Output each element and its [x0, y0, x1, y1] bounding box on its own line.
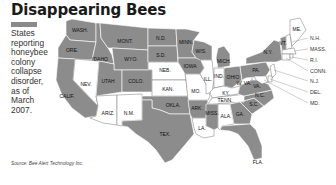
label-ky: KY.: [222, 90, 229, 96]
label-wis: WIS.: [196, 48, 207, 54]
label-okla: OKLA.: [166, 102, 181, 108]
state-ri: [290, 54, 293, 58]
label-ga: GA.: [236, 111, 245, 117]
label-wyo: WYO.: [124, 56, 137, 62]
label-minn: MINN.: [179, 39, 193, 45]
state-miss: [206, 104, 218, 130]
label-neb: NEB.: [159, 67, 171, 73]
label-nd: N.D.: [156, 35, 166, 41]
label-va: VA.: [253, 83, 261, 89]
label-vt: VT.: [279, 40, 286, 46]
callout-del: DEL.: [310, 89, 322, 95]
label-calif: CALIF.: [59, 93, 74, 99]
label-me: ME.: [293, 26, 302, 32]
callout-md: MD.: [310, 100, 320, 106]
callout-nh: N.H.: [310, 35, 320, 41]
label-ariz: ARIZ.: [102, 110, 115, 116]
label-iowa: IOWA: [183, 63, 197, 69]
label-miss: MISS.: [205, 110, 219, 116]
label-ind: IND.: [214, 73, 224, 79]
leader-del: [270, 79, 308, 92]
label-mont: MONT.: [117, 38, 133, 44]
label-wva: W. VA.: [237, 80, 252, 86]
label-wash: WASH.: [72, 27, 88, 33]
state-conn: [282, 54, 290, 60]
leader-conn: [286, 58, 308, 71]
state-mont: [100, 23, 148, 50]
label-tex: TEX.: [159, 131, 170, 137]
label-colo: COLO.: [128, 78, 144, 84]
label-mo: MO.: [191, 88, 200, 94]
callout-conn: CONN.: [310, 68, 327, 74]
label-idaho: IDAHO: [92, 56, 108, 62]
label-mich: MICH.: [217, 58, 231, 64]
callout-mass: MASS.: [310, 46, 326, 52]
label-ill: ILL.: [204, 76, 212, 82]
label-ny: N.Y.: [263, 49, 272, 55]
label-la: LA.: [198, 125, 206, 131]
label-nev: NEV.: [80, 81, 91, 87]
leader-mass: [294, 49, 308, 51]
leader-nj: [274, 70, 308, 81]
label-kan: KAN.: [162, 86, 174, 92]
label-fla: FLA.: [253, 159, 264, 165]
label-ark: ARK.: [191, 105, 203, 111]
label-ala: ALA.: [221, 113, 232, 119]
leader-ri: [292, 57, 308, 60]
state-mich: [216, 46, 230, 68]
label-nc: N.C.: [255, 92, 265, 98]
state-fla: [220, 124, 262, 160]
label-sc: S.C.: [249, 101, 259, 107]
label-ore: ORE.: [66, 47, 78, 53]
us-map: WASH. ORE. IDAHO MONT. WYO. N.D. S.D. NE…: [0, 0, 336, 185]
label-nm: N.M.: [124, 110, 135, 116]
label-utah: UTAH: [101, 78, 115, 84]
label-tenn: TENN.: [218, 97, 233, 103]
source-note: Source: Bee Alert Technology Inc.: [11, 161, 83, 166]
callout-nj: N.J.: [310, 78, 319, 84]
label-pa: PA.: [252, 67, 260, 73]
callout-ri: R.I.: [310, 57, 318, 63]
label-sd: S.D.: [156, 52, 166, 58]
